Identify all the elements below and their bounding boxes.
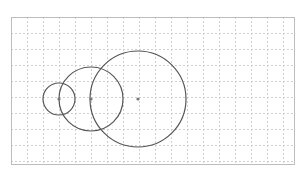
frame-border (12, 18, 295, 165)
grid-lines (11, 17, 294, 164)
diagram-canvas (0, 0, 301, 193)
center-point (57, 97, 60, 100)
center-point (136, 97, 139, 100)
center-point (89, 97, 92, 100)
